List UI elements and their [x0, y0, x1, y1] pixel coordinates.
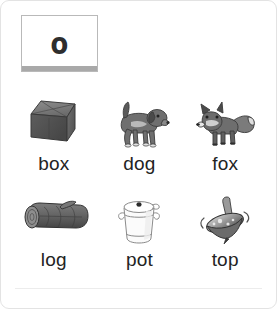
letter-box: o: [21, 15, 98, 72]
log-icon: [15, 190, 93, 248]
picture-cell-top: top: [182, 190, 268, 286]
letter-box-base-bar: [22, 66, 97, 71]
word-label: top: [212, 250, 239, 269]
phonics-worksheet-card: o: [0, 0, 277, 309]
picture-grid: box: [11, 94, 268, 286]
spinning-top-icon: [186, 190, 264, 248]
picture-cell-dog: dog: [97, 94, 183, 190]
card-bottom-divider: [15, 288, 262, 289]
picture-cell-box: box: [11, 94, 97, 190]
fox-icon: [186, 94, 264, 152]
picture-cell-pot: pot: [97, 190, 183, 286]
word-label: pot: [126, 250, 153, 269]
cardboard-box-icon: [15, 94, 93, 152]
letter-glyph: o: [51, 29, 69, 59]
word-label: log: [41, 250, 67, 269]
word-label: dog: [123, 154, 155, 173]
word-label: fox: [212, 154, 238, 173]
picture-cell-log: log: [11, 190, 97, 286]
dog-icon: [100, 94, 178, 152]
picture-cell-fox: fox: [182, 94, 268, 190]
pot-icon: [100, 190, 178, 248]
word-label: box: [38, 154, 69, 173]
